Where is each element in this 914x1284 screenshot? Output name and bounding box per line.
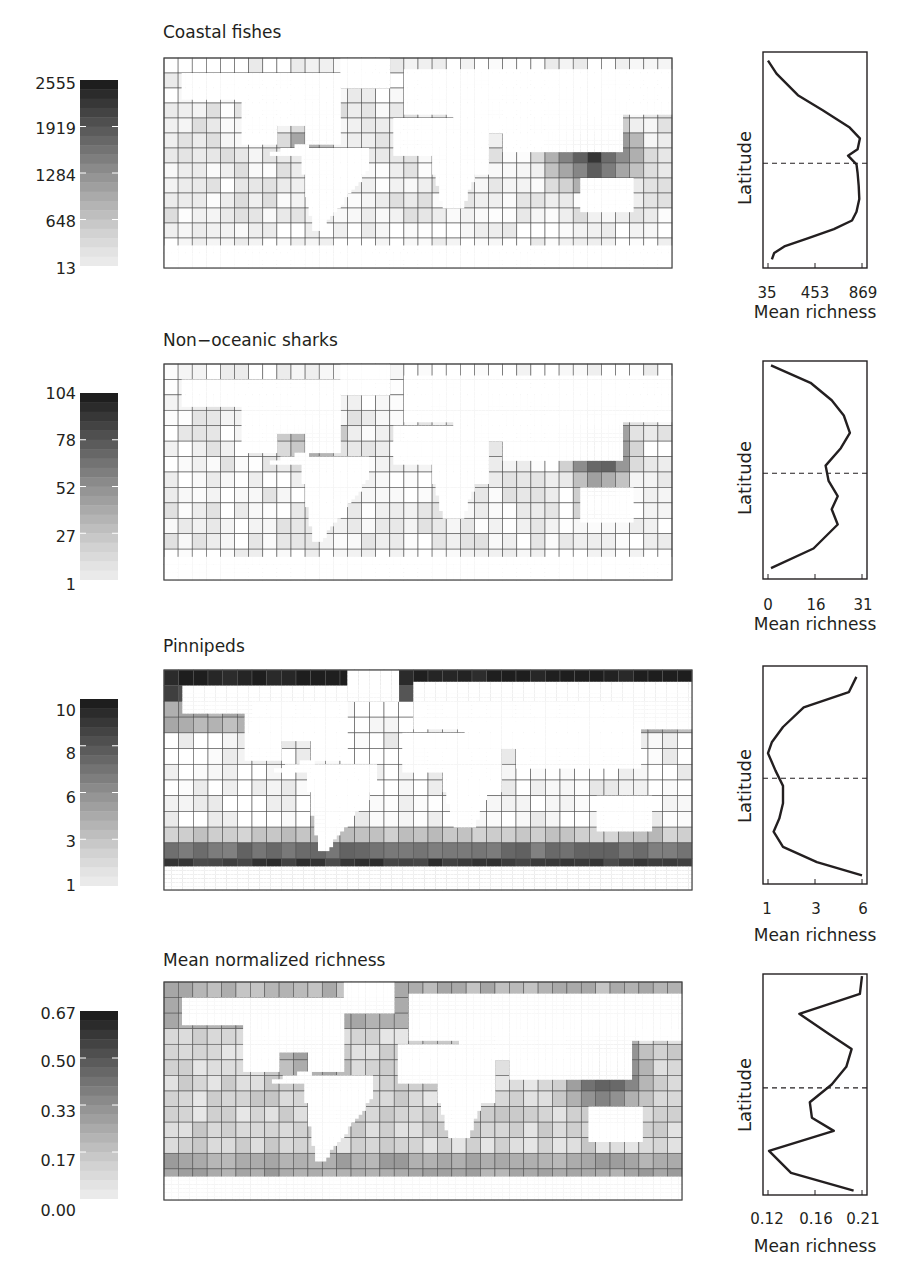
colorbar-tick: 0.67 (6, 1004, 76, 1023)
world-map-grid (163, 981, 683, 1201)
x-axis-label: Mean richness (754, 1236, 877, 1256)
y-axis-label: Latitude (734, 1058, 755, 1132)
panel-title: Mean normalized richness (163, 950, 385, 970)
x-tick-label: 0.12 (750, 1210, 783, 1228)
colorbar-tick: 0.17 (6, 1151, 76, 1170)
x-tick-label: 0.16 (799, 1210, 832, 1228)
colorbar (80, 1011, 118, 1199)
latitude-profile-plot (761, 973, 869, 1198)
panel-mean-normalized-richness: Mean normalized richness 0.67 0.50 0.33 … (0, 0, 914, 1284)
colorbar-tick: 0.00 (6, 1201, 76, 1220)
colorbar-tick: 0.33 (6, 1102, 76, 1121)
x-tick-label: 0.21 (846, 1210, 879, 1228)
colorbar-tick: 0.50 (6, 1052, 76, 1071)
